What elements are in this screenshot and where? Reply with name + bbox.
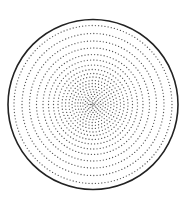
dot-ring	[57, 69, 128, 140]
dot-ring	[84, 96, 101, 113]
outer-circle-outline	[8, 20, 178, 190]
dot-ring	[88, 100, 98, 110]
dot-ring	[65, 76, 121, 132]
dot-ring	[91, 103, 95, 107]
dot-ring	[61, 73, 124, 136]
concentric-rings-diagram	[0, 0, 192, 205]
dot-ring	[68, 80, 117, 129]
dot-ring	[90, 101, 96, 107]
dot-ring	[13, 25, 172, 184]
dotted-rings	[13, 25, 172, 184]
diagram-canvas	[0, 0, 192, 205]
dot-ring	[77, 89, 109, 121]
dot-ring	[80, 91, 106, 117]
